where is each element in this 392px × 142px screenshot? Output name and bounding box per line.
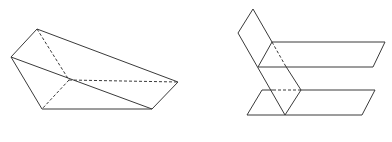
visible-edge bbox=[258, 42, 272, 67]
visible-edge bbox=[238, 9, 253, 33]
visible-edge bbox=[285, 90, 301, 115]
right-planes-figure bbox=[0, 0, 392, 142]
visible-edge bbox=[247, 90, 262, 115]
visible-edge bbox=[238, 33, 285, 115]
hidden-edge bbox=[272, 42, 285, 65]
visible-edge bbox=[362, 90, 375, 115]
visible-edge bbox=[285, 65, 301, 90]
visible-edge bbox=[253, 9, 272, 42]
visible-edge bbox=[373, 42, 385, 67]
diagram-canvas bbox=[0, 0, 392, 142]
